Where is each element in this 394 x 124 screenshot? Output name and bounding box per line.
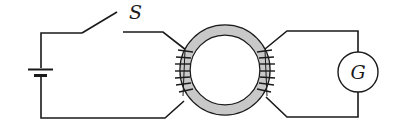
primary-wire-top-right <box>123 32 186 50</box>
secondary-circuit: G <box>265 31 378 117</box>
galvanometer-label: G <box>350 61 365 83</box>
secondary-wire-bottom <box>266 92 358 117</box>
switch-blade <box>82 12 117 33</box>
primary-circuit <box>28 12 186 118</box>
secondary-wire-top <box>265 31 358 52</box>
iron-ring <box>185 30 265 110</box>
galvanometer: G <box>338 52 378 92</box>
battery-icon <box>28 70 53 76</box>
primary-wire-bottom <box>41 77 184 118</box>
faraday-induction-diagram: G S <box>0 0 394 124</box>
primary-wire-top-left <box>41 33 82 68</box>
switch-label: S <box>129 1 142 23</box>
